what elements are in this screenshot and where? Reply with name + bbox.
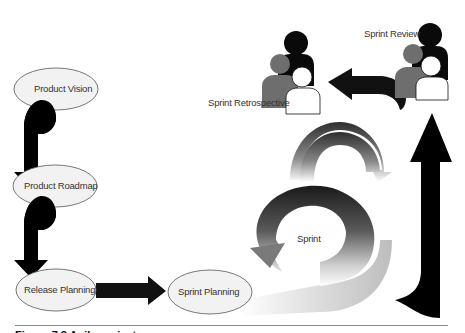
release-to-sprint-planning-arrow (96, 276, 166, 305)
label-sprint: Sprint (297, 233, 321, 244)
review-to-retrospective-arrow (328, 68, 406, 110)
caption-rule (15, 325, 448, 326)
sprint-small-loop-arrow (290, 122, 392, 182)
label-sprint-retrospective: Sprint Retrospective (208, 97, 290, 108)
label-product-roadmap: Product Roadmap (24, 180, 98, 191)
sprint-to-review-arrow (395, 113, 452, 318)
label-product-vision: Product Vision (34, 83, 92, 94)
label-release-planning: Release Planning (24, 284, 95, 295)
label-sprint-planning: Sprint Planning (178, 286, 239, 297)
figure-caption: Figure 7.3 Agile project (15, 328, 136, 333)
label-sprint-review: Sprint Review (364, 28, 420, 39)
